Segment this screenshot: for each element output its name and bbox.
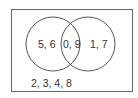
right-only-label: 1, 7 (90, 38, 108, 50)
intersection-label: 0, 9 (63, 38, 81, 50)
venn-diagram: 5, 6 0, 9 1, 7 2, 3, 4, 8 (0, 0, 138, 98)
universe-only-label: 2, 3, 4, 8 (31, 77, 72, 89)
left-only-label: 5, 6 (38, 38, 56, 50)
